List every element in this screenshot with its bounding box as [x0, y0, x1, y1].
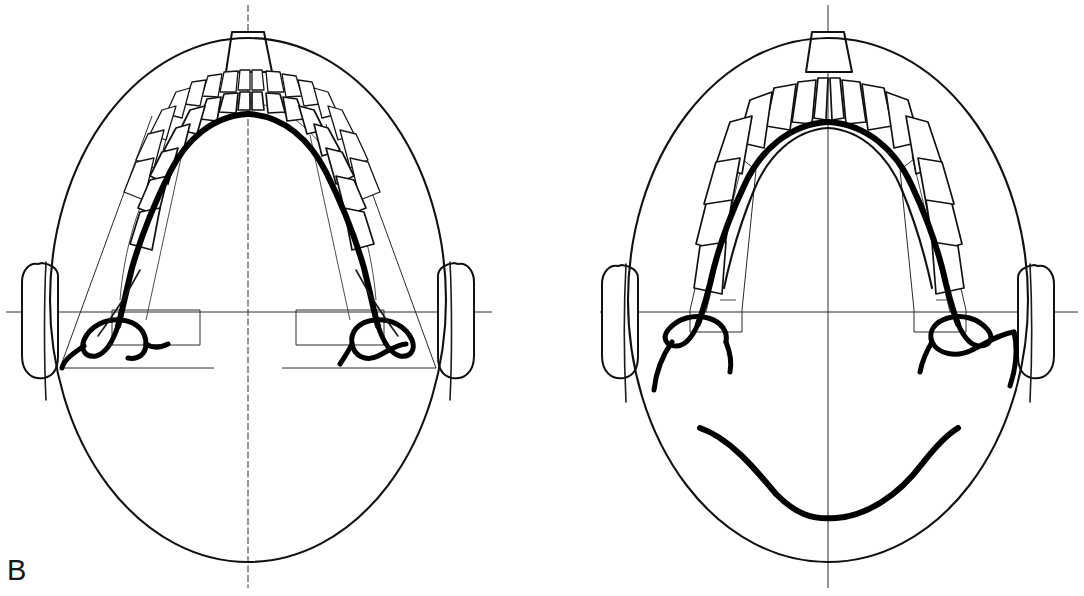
left-skull-tracing — [6, 5, 492, 588]
right-condyle-neck-left — [726, 342, 731, 372]
left-coronoid-tail-right — [340, 344, 352, 364]
left-condyle-loop-left — [83, 320, 146, 359]
left-auricle-icon — [22, 263, 58, 378]
left-condyle-neck-left — [146, 344, 168, 347]
right-auricle-icon — [438, 263, 474, 378]
right-coronoid-tail-left — [654, 342, 672, 390]
right-coronoid-tail-right — [920, 342, 932, 372]
skull-tracing-figure — [0, 0, 1084, 596]
left-condyle-loop-right — [352, 320, 414, 359]
right-skull-tracing — [600, 5, 1078, 588]
right-condyle-loop-right — [931, 317, 1014, 355]
left-coronoid-tail-left — [62, 346, 84, 368]
right-maxillary-tooth-row — [694, 78, 964, 294]
right-hyoid-curve — [700, 428, 958, 518]
right-posterior-tail — [1010, 332, 1016, 386]
figure-root: B — [0, 0, 1084, 596]
figure-panel-label-b: B — [7, 556, 26, 585]
